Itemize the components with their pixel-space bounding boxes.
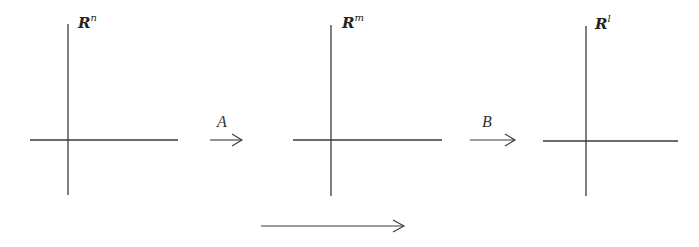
arrow-a-icon: [210, 134, 242, 146]
space-exponent: m: [354, 12, 363, 23]
space-exponent: n: [90, 12, 96, 23]
map-label-a: A: [217, 114, 227, 130]
space-base: R: [78, 14, 90, 32]
axes-rl: [543, 26, 678, 196]
space-exponent: l: [607, 13, 610, 24]
space-base: R: [342, 14, 354, 32]
map-label-b: B: [482, 114, 492, 130]
space-label-rm: Rm: [342, 14, 364, 31]
space-label-rn: Rn: [78, 14, 97, 31]
space-label-rl: Rl: [595, 15, 611, 32]
diagram-canvas: [0, 0, 699, 247]
space-base: R: [595, 15, 607, 33]
axes-rn: [30, 24, 178, 195]
arrow-b-icon: [470, 134, 515, 146]
axes-rm: [293, 25, 442, 196]
composite-arrow-icon: [261, 220, 404, 232]
